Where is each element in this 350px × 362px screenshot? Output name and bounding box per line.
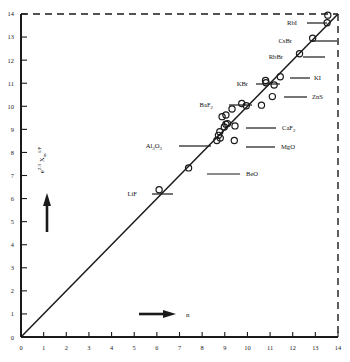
point-label-csbr: CsBr	[278, 37, 292, 44]
y-tick-label: 9	[11, 126, 14, 133]
x-tick-label: 2	[65, 344, 68, 351]
y-tick-label: 8	[11, 149, 14, 156]
point-label-mgo: MgO	[281, 143, 295, 150]
point-label-lif: LiF	[127, 190, 137, 197]
x-tick-label: 8	[201, 344, 204, 351]
y-tick-label: 10	[8, 103, 14, 110]
y-tick-label: 12	[8, 57, 14, 64]
y-tick-label: 2	[11, 287, 14, 294]
x-tick-label: 0	[19, 344, 22, 351]
y-tick-label: 14	[8, 10, 15, 17]
scatter-plot-canvas: 0123456789101112131401234567891011121314…	[0, 0, 350, 362]
x-tick-label: 1	[42, 344, 45, 351]
y-tick-label: 13	[8, 33, 14, 40]
y-tick-label: 6	[11, 195, 14, 202]
point-label-rbbr: RbBr	[269, 53, 284, 60]
y-tick-label: 5	[11, 218, 14, 225]
point-label-ki: KI	[314, 74, 321, 81]
x-tick-label: 13	[312, 344, 318, 351]
x-tick-label: 6	[155, 344, 158, 351]
x-tick-label: 12	[290, 344, 296, 351]
y-tick-label: 3	[11, 264, 14, 271]
y-tick-label: 1	[11, 310, 14, 317]
point-label-beo: BeO	[246, 170, 258, 177]
point-label-rbi: RbI	[287, 19, 297, 26]
x-tick-label: 3	[87, 344, 90, 351]
y-tick-label: 11	[8, 80, 14, 87]
x-tick-label: 10	[244, 344, 250, 351]
chart-figure: 0123456789101112131401234567891011121314…	[0, 0, 350, 362]
point-label-zns: ZnS	[312, 93, 323, 100]
x-tick-label: 14	[335, 344, 342, 351]
point-label-kbr: KBr	[237, 80, 249, 87]
x-axis-label: n	[186, 311, 190, 319]
x-tick-label: 9	[223, 344, 226, 351]
x-tick-label: 5	[133, 344, 136, 351]
x-tick-label: 11	[267, 344, 273, 351]
y-tick-label: 0	[11, 334, 14, 341]
